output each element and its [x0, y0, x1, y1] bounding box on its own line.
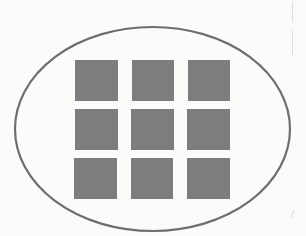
scan-artifact	[292, 30, 293, 55]
grid-square-r3-c1	[74, 158, 117, 199]
grid-square-r1-c2	[132, 60, 174, 101]
grid-square-r2-c1	[75, 109, 118, 150]
grid-in-ellipse-diagram	[0, 0, 306, 236]
grid-square-r2-c3	[187, 109, 230, 150]
scan-artifact	[292, 2, 293, 22]
diagram-canvas	[0, 0, 306, 236]
grid-square-r1-c1	[75, 60, 118, 101]
square-grid	[74, 60, 230, 199]
grid-square-r2-c2	[131, 109, 174, 150]
grid-square-r3-c2	[131, 158, 173, 199]
grid-square-r3-c3	[187, 158, 230, 199]
grid-square-r1-c3	[188, 60, 230, 101]
